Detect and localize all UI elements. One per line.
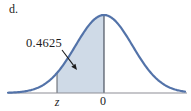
shaded-area (57, 15, 104, 93)
part-label: d. (9, 3, 18, 15)
figure-d: d. 0.4625 z 0 (0, 0, 191, 111)
x-tick-label-zero: 0 (100, 95, 106, 107)
normal-curve-chart (0, 0, 191, 111)
x-tick-label-z: z (55, 96, 60, 108)
area-annotation-label: 0.4625 (26, 37, 62, 50)
